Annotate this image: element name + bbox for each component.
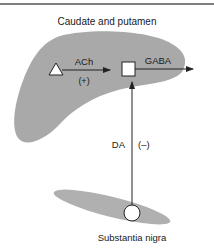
da-effect-label: (–) (138, 139, 150, 150)
gabaergic-neuron-square-icon (122, 62, 135, 76)
ach-effect-label: (+) (78, 76, 89, 86)
basal-ganglia-diagram: Caudate and putamen ACh (+) GABA DA (–) … (0, 0, 214, 251)
substantia-nigra-region (51, 183, 172, 231)
da-label: DA (112, 139, 126, 150)
striatum-label: Caudate and putamen (58, 16, 157, 27)
gaba-label: GABA (145, 55, 172, 66)
ach-label: ACh (75, 56, 93, 67)
dopaminergic-neuron-circle-icon (124, 205, 140, 221)
striatum-region (14, 31, 185, 142)
substantia-nigra-label: Substantia nigra (98, 232, 167, 243)
